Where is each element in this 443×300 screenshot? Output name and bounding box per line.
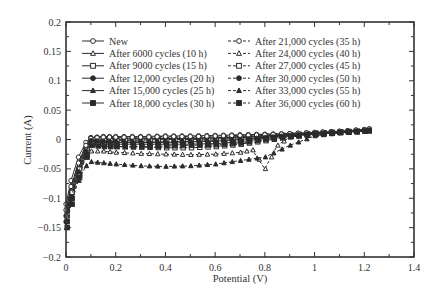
y-tick-label: 0.2 <box>49 17 62 28</box>
legend-item: After 15,000 cycles (25 h) <box>82 85 214 97</box>
legend-label: After 24,000 cycles (40 h) <box>255 48 360 60</box>
x-tick-label: 0.4 <box>159 262 172 273</box>
x-tick-label: 1 <box>312 262 317 273</box>
y-tick-label: −0.1 <box>43 193 61 204</box>
y-tick-label: 0.05 <box>44 105 62 116</box>
legend-label: After 27,000 cycles (45 h) <box>255 60 360 72</box>
y-tick-label: 0.15 <box>44 46 62 57</box>
y-tick-label: −0.2 <box>43 252 61 263</box>
legend-item: After 24,000 cycles (40 h) <box>228 48 360 60</box>
legend-label: After 6000 cycles (10 h) <box>109 48 207 60</box>
x-tick-label: 0.6 <box>209 262 222 273</box>
legend-label: After 12,000 cycles (20 h) <box>109 73 214 85</box>
legend-item: After 27,000 cycles (45 h) <box>228 60 360 72</box>
x-tick-label: 0.2 <box>109 262 122 273</box>
x-tick-label: 0.8 <box>259 262 272 273</box>
x-tick-label: 1.2 <box>358 262 371 273</box>
legend-item: After 18,000 cycles (30 h) <box>82 98 214 110</box>
legend-label: After 30,000 cycles (50 h) <box>255 73 360 85</box>
y-tick-label: −0.05 <box>38 163 61 174</box>
legend-label: After 33,000 cycles (55 h) <box>255 85 360 97</box>
y-tick-label: 0 <box>56 134 61 145</box>
y-axis-label: Current (A) <box>22 115 34 165</box>
y-tick-label: 0.1 <box>49 75 62 86</box>
legend-item: After 36,000 cycles (60 h) <box>228 98 360 110</box>
chart: 00.20.40.60.811.21.4 −0.2−0.15−0.1−0.050… <box>0 0 443 300</box>
legend-item: After 12,000 cycles (20 h) <box>82 73 214 85</box>
y-tick-labels: −0.2−0.15−0.1−0.0500.050.10.150.2 <box>38 17 61 263</box>
legend-item: After 30,000 cycles (50 h) <box>228 73 360 85</box>
legend-label: After 36,000 cycles (60 h) <box>255 98 360 110</box>
legend-label: New <box>109 36 129 47</box>
legend-item: After 21,000 cycles (35 h) <box>228 36 360 48</box>
x-tick-label: 0 <box>64 262 69 273</box>
legend-item: After 33,000 cycles (55 h) <box>228 85 360 97</box>
x-tick-label: 1.4 <box>408 262 421 273</box>
legend-label: After 18,000 cycles (30 h) <box>109 98 214 110</box>
legend-item: New <box>82 36 129 47</box>
legend-label: After 15,000 cycles (25 h) <box>109 85 214 97</box>
legend-item: After 6000 cycles (10 h) <box>82 48 207 60</box>
legend: NewAfter 6000 cycles (10 h)After 9000 cy… <box>82 36 360 110</box>
legend-label: After 9000 cycles (15 h) <box>109 60 207 72</box>
y-tick-label: −0.15 <box>38 222 61 233</box>
legend-item: After 9000 cycles (15 h) <box>82 60 207 72</box>
x-tick-labels: 00.20.40.60.811.21.4 <box>64 262 421 273</box>
legend-label: After 21,000 cycles (35 h) <box>255 36 360 48</box>
plot-data <box>64 127 372 230</box>
x-axis-label: Potential (V) <box>213 273 268 285</box>
